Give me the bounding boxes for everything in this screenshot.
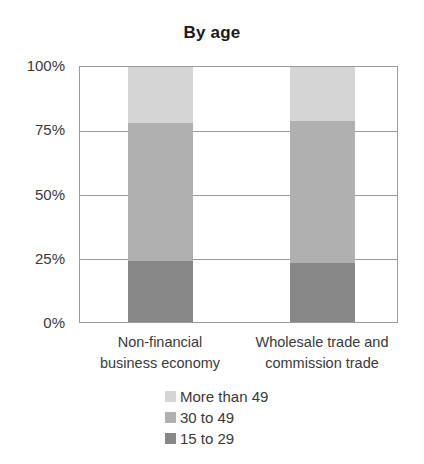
- category-label-1: Wholesale trade and commission trade: [227, 332, 417, 374]
- y-tick-100: 100%: [0, 58, 72, 74]
- legend-label-more-than-49: More than 49: [180, 388, 268, 406]
- chart-legend: More than 49 30 to 49 15 to 29: [0, 386, 424, 449]
- category-label-1-line1: Wholesale trade and: [227, 332, 417, 353]
- bar-segment-15-to-29[interactable]: [290, 263, 355, 322]
- x-axis-category-labels: Non-financial business economy Wholesale…: [0, 332, 424, 384]
- plot-area: [79, 66, 398, 323]
- legend-item-more-than-49[interactable]: More than 49: [0, 386, 424, 407]
- chart-container: By age 100% 75% 50% 25% 0% Non-financial…: [0, 0, 424, 464]
- bar-segment-15-to-29[interactable]: [128, 261, 193, 322]
- legend-label-15-to-29: 15 to 29: [180, 430, 234, 448]
- y-tick-75: 75%: [0, 122, 72, 138]
- category-label-1-line2: commission trade: [227, 353, 417, 374]
- bar-segment-30-to-49[interactable]: [128, 123, 193, 261]
- y-tick-25: 25%: [0, 251, 72, 267]
- legend-item-30-to-49[interactable]: 30 to 49: [0, 407, 424, 428]
- bar-wholesale-trade-and-commission-trade[interactable]: [290, 67, 355, 322]
- legend-label-30-to-49: 30 to 49: [180, 409, 234, 427]
- y-tick-0: 0%: [0, 315, 72, 331]
- legend-item-15-to-29[interactable]: 15 to 29: [0, 428, 424, 449]
- y-tick-50: 50%: [0, 187, 72, 203]
- bar-segment-30-to-49[interactable]: [290, 121, 355, 264]
- bar-non-financial-business-economy[interactable]: [128, 67, 193, 322]
- legend-swatch-icon-15-to-29: [165, 433, 176, 444]
- legend-swatch-icon-30-to-49: [165, 412, 176, 423]
- legend-swatch-icon-more-than-49: [165, 391, 176, 402]
- bar-segment-more-than-49[interactable]: [290, 67, 355, 121]
- bar-segment-more-than-49[interactable]: [128, 67, 193, 123]
